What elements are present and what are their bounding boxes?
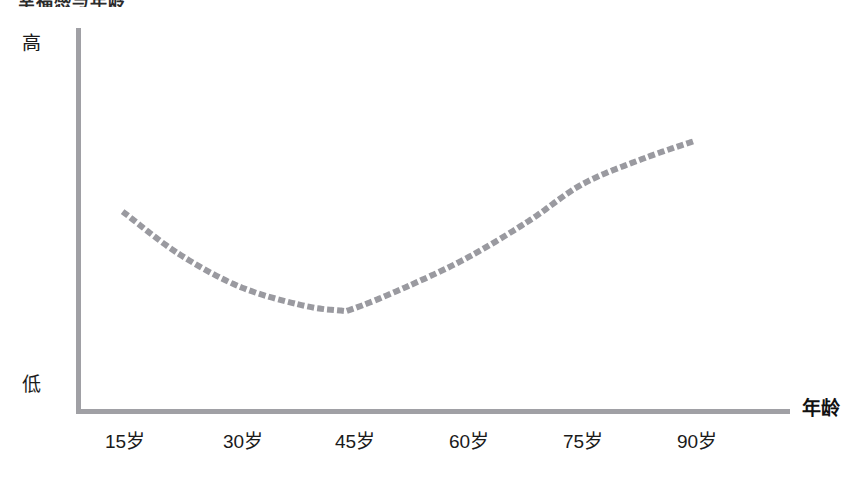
- x-tick-label-4: 75岁: [563, 432, 603, 451]
- x-tick-label-5: 90岁: [677, 432, 717, 451]
- chart-container: 幸福感与年龄 高 低 年龄 15岁 30岁 45岁 60岁 75岁 90岁: [0, 0, 866, 481]
- x-tick-label-2: 45岁: [335, 432, 375, 451]
- data-series-line: [125, 140, 697, 311]
- x-tick-label-1: 30岁: [223, 432, 263, 451]
- x-tick-label-0: 15岁: [105, 432, 145, 451]
- x-tick-label-3: 60岁: [449, 432, 489, 451]
- plot-area: [0, 0, 866, 481]
